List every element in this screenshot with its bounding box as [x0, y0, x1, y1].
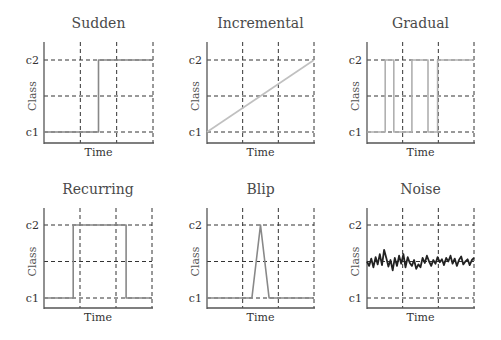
concept-drift-figure: Suddenc2c1ClassTimeIncrementalc2c1ClassT…: [0, 0, 501, 340]
panel-gradual: Gradualc2c1ClassTime: [349, 15, 475, 159]
y-tick-label: c2: [26, 54, 39, 67]
x-axis-label: Time: [407, 146, 435, 159]
panel-noise: Noisec2c1ClassTime: [349, 181, 475, 324]
x-axis-label: Time: [407, 311, 435, 324]
y-tick-label: c1: [26, 292, 39, 305]
y-tick-label: c2: [349, 219, 362, 232]
y-tick-label: c2: [26, 219, 39, 232]
y-axis-label: Class: [189, 246, 202, 276]
panel-title: Recurring: [62, 181, 134, 197]
y-tick-label: c1: [26, 126, 39, 139]
y-tick-label: c1: [349, 126, 362, 139]
data-line: [367, 250, 474, 270]
y-tick-label: c2: [349, 54, 362, 67]
y-tick-label: c1: [189, 292, 202, 305]
y-axis-label: Class: [349, 246, 362, 276]
panel-title: Gradual: [392, 15, 450, 31]
y-axis-label: Class: [349, 81, 362, 111]
y-tick-label: c2: [189, 219, 202, 232]
panel-title: Incremental: [217, 15, 304, 31]
x-axis-label: Time: [247, 311, 275, 324]
panel-sudden: Suddenc2c1ClassTime: [26, 15, 154, 159]
y-axis-label: Class: [189, 81, 202, 111]
y-axis-label: Class: [26, 246, 39, 276]
x-axis-label: Time: [84, 311, 112, 324]
y-tick-label: c1: [349, 292, 362, 305]
y-axis-label: Class: [26, 81, 39, 111]
panel-title: Sudden: [72, 15, 126, 31]
panel-title: Noise: [400, 181, 441, 197]
panel-recurring: Recurringc2c1ClassTime: [26, 181, 153, 324]
x-axis-label: Time: [247, 146, 275, 159]
panel-incremental: Incrementalc2c1ClassTime: [189, 15, 315, 159]
x-axis-label: Time: [85, 146, 113, 159]
panel-title: Blip: [246, 181, 274, 197]
y-tick-label: c1: [189, 126, 202, 139]
y-tick-label: c2: [189, 54, 202, 67]
panel-blip: Blipc2c1ClassTime: [189, 181, 315, 324]
